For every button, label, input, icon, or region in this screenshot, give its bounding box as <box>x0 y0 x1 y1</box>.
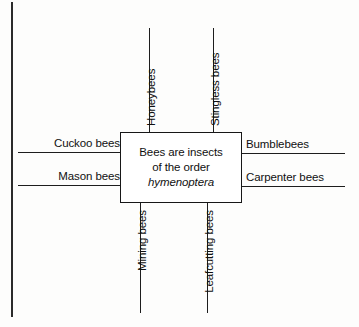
branch-label-stingless-bees: Stingless bees <box>209 26 222 126</box>
branch-label-cuckoo-bees: Cuckoo bees <box>22 137 120 150</box>
spoke-line-cuckoo-bees <box>18 152 122 153</box>
spoke-line-bumblebees <box>241 153 345 154</box>
concept-map-diagram: Bees are insects of the order hymenopter… <box>0 0 359 327</box>
branch-label-mason-bees: Mason bees <box>22 170 120 183</box>
branch-label-mining-bees: Mining bees <box>136 210 149 310</box>
center-text-line-2: of the order <box>152 160 210 175</box>
center-text-line-1: Bees are insects <box>139 145 222 160</box>
center-definition-box: Bees are insects of the order hymenopter… <box>120 132 242 203</box>
page-edge-rule <box>11 2 13 317</box>
center-text-line-3: hymenoptera <box>148 175 214 190</box>
branch-label-honeybees: Honeybees <box>145 26 158 126</box>
spoke-line-mason-bees <box>18 185 122 186</box>
branch-label-bumblebees: Bumblebees <box>246 138 354 151</box>
branch-label-carpenter-bees: Carpenter bees <box>246 171 354 184</box>
branch-label-leafcutting-bees: Leafcutting bees <box>203 210 216 310</box>
spoke-line-carpenter-bees <box>241 186 345 187</box>
